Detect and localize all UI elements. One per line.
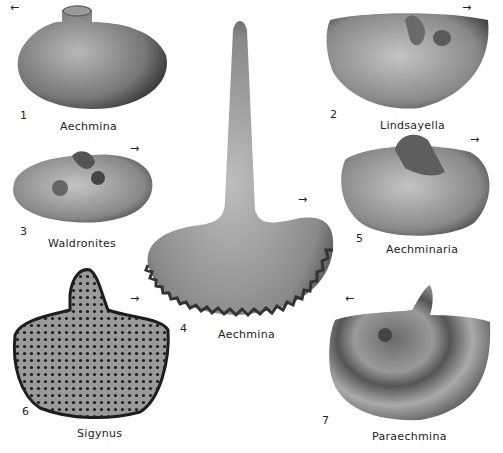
fossil-figure-7 [329,285,490,420]
orientation-arrow-3: → [130,143,139,154]
fossil-figure-1 [18,6,167,109]
orientation-arrow-5: → [470,134,479,145]
orientation-arrow-2: → [462,2,471,13]
figure-number-5: 5 [356,232,363,245]
figure-genus-5: Aechminaria [386,243,458,256]
fossil-figure-4 [146,21,333,315]
figure-genus-3: Waldronites [48,237,116,250]
orientation-arrow-4: → [298,194,307,205]
fossil-figure-5 [341,135,489,236]
plate-illustrations [0,0,503,453]
fossil-figure-3 [13,151,152,222]
figure-number-1: 1 [20,109,27,122]
figure-number-4: 4 [180,322,187,335]
figure-number-7: 7 [322,414,329,427]
figure-genus-7: Paraechmina [372,430,447,443]
figure-number-2: 2 [330,108,337,121]
figure-number-3: 3 [20,225,27,238]
orientation-arrow-7: ← [345,293,354,304]
figure-genus-1: Aechmina [60,120,117,133]
figure-genus-6: Sigynus [77,427,122,440]
figure-number-6: 6 [22,405,29,418]
fossil-figure-6 [14,270,168,418]
figure-genus-2: Lindsayella [380,119,445,132]
orientation-arrow-1: ← [10,2,19,13]
figure-genus-4: Aechmina [218,328,275,341]
fossil-figure-2 [326,13,488,108]
orientation-arrow-6: → [130,293,139,304]
